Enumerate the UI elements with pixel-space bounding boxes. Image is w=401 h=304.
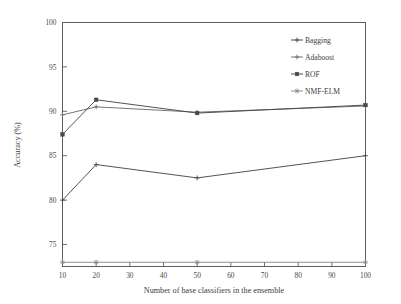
x-axis-title: Number of base classifiers in the ensemb… bbox=[144, 286, 285, 295]
legend-label-rof: ROF bbox=[305, 70, 320, 79]
chart-background bbox=[0, 0, 401, 304]
y-axis-title: Accuracy (%) bbox=[13, 122, 22, 168]
marker-square bbox=[295, 72, 299, 76]
accuracy-vs-ensemble-size-line-chart: 7580859095100 102030405060708090100 Accu… bbox=[0, 0, 401, 304]
x-tick-label: 20 bbox=[92, 271, 100, 280]
chart-figure: 7580859095100 102030405060708090100 Accu… bbox=[0, 0, 401, 304]
y-tick-label: 80 bbox=[49, 196, 57, 205]
x-tick-label: 50 bbox=[193, 271, 201, 280]
x-tick-label: 80 bbox=[294, 271, 302, 280]
y-tick-label: 100 bbox=[45, 18, 56, 27]
marker-square bbox=[195, 111, 199, 115]
marker-square bbox=[364, 103, 368, 107]
y-tick-label: 90 bbox=[49, 107, 57, 116]
x-tick-label: 100 bbox=[360, 271, 371, 280]
x-tick-label: 60 bbox=[227, 271, 235, 280]
legend-label-nmf-elm: NMF-ELM bbox=[305, 87, 340, 96]
x-tick-label: 90 bbox=[328, 271, 336, 280]
y-tick-label: 75 bbox=[49, 240, 57, 249]
x-tick-label: 10 bbox=[59, 271, 67, 280]
marker-square bbox=[61, 133, 65, 137]
y-tick-label: 85 bbox=[49, 151, 57, 160]
x-tick-label: 70 bbox=[261, 271, 269, 280]
y-tick-label: 95 bbox=[49, 63, 57, 72]
legend-label-adaboost: Adaboost bbox=[305, 53, 335, 62]
x-tick-label: 30 bbox=[126, 271, 134, 280]
legend-label-bagging: Bagging bbox=[305, 36, 331, 45]
x-tick-label: 40 bbox=[160, 271, 168, 280]
marker-square bbox=[94, 98, 98, 102]
